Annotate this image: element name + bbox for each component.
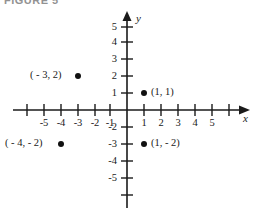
- x-axis-label: x: [243, 112, 248, 124]
- y-tick-label--3: -3: [99, 138, 117, 149]
- coordinate-plane-chart: [0, 0, 257, 215]
- y-tick-label--4: -4: [99, 155, 117, 166]
- y-tick-label-3: 3: [105, 53, 117, 64]
- x-tick-label--5: -5: [36, 117, 52, 128]
- x-tick-label-1: 1: [138, 117, 150, 128]
- x-tick-label-2: 2: [155, 117, 167, 128]
- x-tick-label-5: 5: [206, 117, 218, 128]
- data-point-label: (1, 1): [151, 86, 174, 97]
- y-tick-label--2: -2: [99, 121, 117, 132]
- y-tick-label-5: 5: [105, 21, 117, 32]
- x-tick-label--3: -3: [70, 117, 86, 128]
- y-tick-label-2: 2: [105, 70, 117, 81]
- y-axis-arrowhead: [123, 11, 132, 21]
- y-tick-label--5: -5: [99, 172, 117, 183]
- y-tick-label-4: 4: [105, 36, 117, 47]
- x-tick-label-4: 4: [189, 117, 201, 128]
- x-tick-label--4: -4: [53, 117, 69, 128]
- data-point-dot: [141, 90, 147, 96]
- data-point-label: ( - 3, 2): [30, 69, 62, 80]
- data-point-dot: [141, 141, 147, 147]
- y-axis-label: y: [136, 12, 141, 24]
- data-point-dot: [75, 73, 81, 79]
- y-tick-label-1: 1: [105, 87, 117, 98]
- data-point-label: (1, - 2): [151, 137, 180, 148]
- data-point-label: ( - 4, - 2): [5, 137, 43, 148]
- data-point-dot: [58, 141, 64, 147]
- x-tick-label-3: 3: [172, 117, 184, 128]
